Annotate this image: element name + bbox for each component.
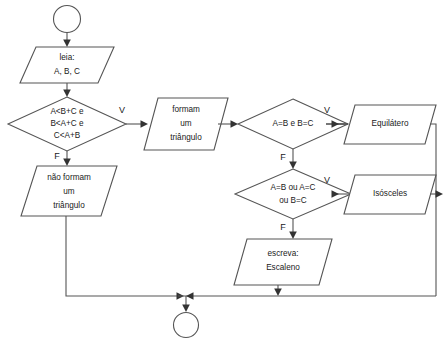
- branch-label-equilateral-true: V: [324, 105, 330, 115]
- node-output-forms-triangle[interactable]: formam um triângulo: [144, 98, 228, 150]
- end-circle[interactable]: [174, 313, 199, 338]
- start-circle[interactable]: [54, 6, 81, 33]
- connector-bottom-merge-rail: [178, 292, 436, 300]
- connector-isosceles-false: F: [280, 219, 297, 239]
- arrow-head-icon: [289, 232, 297, 240]
- forms-line-3: triângulo: [170, 133, 202, 142]
- node-output-escaleno[interactable]: escreva: Escaleno: [234, 239, 332, 285]
- equilatero-label: Equilátero: [372, 119, 409, 128]
- node-output-not-forms-triangle[interactable]: não formam um triângulo: [21, 166, 117, 216]
- escaleno-line-2: Escaleno: [266, 263, 300, 272]
- connector-triangle-false: F: [54, 151, 71, 166]
- arrow-head-icon: [63, 40, 71, 48]
- connector-merge-to-end: [182, 296, 190, 312]
- node-end[interactable]: [174, 313, 199, 338]
- decision-triangle-line-2: B<A+C e: [50, 119, 84, 128]
- read-line-2: A, B, C: [54, 67, 80, 76]
- arrow-head-icon: [274, 289, 282, 297]
- node-read-input[interactable]: leia: A, B, C: [20, 47, 114, 83]
- connector-escaleno-to-merge: [274, 285, 282, 296]
- node-start[interactable]: [54, 6, 81, 33]
- not-forms-line-3: triângulo: [53, 201, 85, 210]
- connector-read-to-decision-triangle: [63, 83, 71, 97]
- node-decision-triangle[interactable]: A<B+C e B<A+C e C<A+B: [8, 97, 126, 151]
- escaleno-parallelogram[interactable]: [234, 239, 332, 285]
- node-output-equilatero[interactable]: Equilátero: [344, 105, 436, 144]
- decision-isosceles-line-2: ou B=C: [279, 196, 307, 205]
- decision-equilateral-line-1: A=B e B=C: [273, 119, 314, 128]
- decision-triangle-line-3: C<A+B: [54, 131, 81, 140]
- branch-label-isosceles-false: F: [280, 222, 286, 232]
- node-output-isosceles[interactable]: Isósceles: [344, 175, 436, 214]
- arrow-head-icon: [63, 159, 71, 167]
- branch-label-equilateral-false: F: [280, 152, 286, 162]
- arrow-head-icon: [186, 292, 194, 300]
- arrow-head-icon: [436, 190, 444, 198]
- arrow-head-icon: [289, 162, 297, 170]
- branch-label-isosceles-true: V: [324, 175, 330, 185]
- connector-equilatero-to-end: [430, 124, 436, 296]
- arrow-head-icon: [63, 90, 71, 98]
- forms-line-2: um: [180, 119, 192, 128]
- arrow-head-icon: [182, 305, 190, 313]
- not-forms-line-1: não formam: [47, 173, 91, 182]
- read-line-1: leia:: [59, 53, 74, 62]
- decision-isosceles-line-1: A=B ou A=C: [270, 183, 315, 192]
- escaleno-line-1: escreva:: [268, 249, 299, 258]
- branch-label-triangle-true: V: [119, 105, 125, 115]
- flowchart-canvas: leia: A, B, C A<B+C e B<A+C e C<A+B V F: [0, 0, 446, 343]
- forms-line-1: formam: [172, 105, 200, 114]
- connector-not-forms-to-end: [66, 216, 184, 300]
- isosceles-label: Isósceles: [373, 189, 407, 198]
- flowchart-svg: leia: A, B, C A<B+C e B<A+C e C<A+B V F: [0, 0, 446, 343]
- not-forms-line-2: um: [63, 187, 75, 196]
- connector-equilateral-false: F: [280, 149, 297, 169]
- branch-label-triangle-false: F: [54, 151, 60, 161]
- decision-triangle-line-1: A<B+C e: [50, 107, 84, 116]
- connector-start-to-read: [63, 33, 71, 48]
- arrow-head-icon: [141, 120, 149, 128]
